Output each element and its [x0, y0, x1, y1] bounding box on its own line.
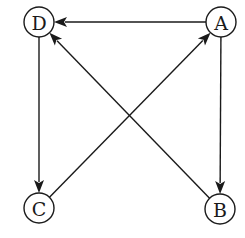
edges-layer	[34, 17, 225, 198]
directed-graph: ABCD	[0, 0, 245, 238]
edge-line	[57, 41, 209, 199]
edge-a-to-b	[215, 37, 225, 194]
node-label: A	[213, 12, 228, 34]
node-label: B	[213, 199, 227, 221]
node-d: D	[24, 7, 54, 37]
edge-line	[49, 41, 202, 198]
edge-a-to-d	[54, 17, 206, 27]
node-b: B	[205, 194, 235, 224]
node-a: A	[206, 7, 236, 37]
node-label: D	[31, 12, 46, 34]
edge-d-to-c	[34, 37, 44, 193]
node-label: C	[32, 198, 47, 220]
node-c: C	[24, 193, 54, 223]
edge-line	[220, 37, 221, 183]
